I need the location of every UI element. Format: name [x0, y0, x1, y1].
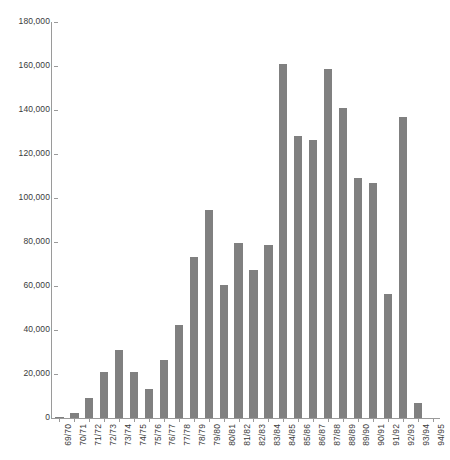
x-axis-tick-label: 77/78	[182, 424, 192, 446]
bar-slot	[261, 22, 276, 418]
bar-slot	[82, 22, 97, 418]
bar	[55, 417, 63, 418]
x-axis-tick-label: 84/85	[287, 424, 297, 446]
y-axis-tick-label: 40,000	[23, 324, 50, 334]
x-axis-tick-mark	[268, 419, 269, 422]
bar-slot	[186, 22, 201, 418]
x-axis-tick-label: 87/88	[332, 424, 342, 446]
x-axis-line	[51, 418, 440, 419]
bar	[190, 257, 198, 418]
x-axis-tick-label: 89/90	[361, 424, 371, 446]
bar-slot	[112, 22, 127, 418]
x-axis-tick-mark	[358, 419, 359, 422]
x-axis-tick-mark	[239, 419, 240, 422]
x-axis-tick-mark	[343, 419, 344, 422]
plot-area	[52, 22, 440, 418]
x-axis-tick-label: 80/81	[227, 424, 237, 446]
bar	[309, 140, 317, 418]
x-axis-tick-label: 92/93	[406, 424, 416, 446]
x-axis-tick-mark	[59, 419, 60, 422]
x-axis-tick-mark	[194, 419, 195, 422]
bar-slot	[306, 22, 321, 418]
y-axis-tick-label: 20,000	[23, 368, 50, 378]
bar-slot	[276, 22, 291, 418]
y-axis-tick-label: 160,000	[19, 60, 50, 70]
x-axis-tick-mark	[179, 419, 180, 422]
bar	[234, 243, 242, 418]
x-axis-tick-mark	[74, 419, 75, 422]
x-axis-tick-label: 83/84	[272, 424, 282, 446]
y-axis-tick-mark	[54, 418, 58, 419]
x-axis-tick-label: 72/73	[108, 424, 118, 446]
x-axis-tick-mark	[328, 419, 329, 422]
bar	[100, 372, 108, 418]
x-axis-tick-mark	[224, 419, 225, 422]
bar	[130, 372, 138, 418]
x-axis-tick-label: 94/95	[436, 424, 446, 446]
bar-slot	[380, 22, 395, 418]
y-axis-tick-label: 140,000	[19, 104, 50, 114]
x-axis-tick-mark	[433, 419, 434, 422]
bar-slot	[410, 22, 425, 418]
x-axis-tick-mark	[253, 419, 254, 422]
x-axis-tick-mark	[164, 419, 165, 422]
x-axis-tick-label: 74/75	[138, 424, 148, 446]
bar	[399, 117, 407, 418]
bar	[369, 183, 377, 418]
bar	[175, 325, 183, 419]
bar	[70, 413, 78, 419]
bar	[354, 178, 362, 418]
x-axis-tick-mark	[373, 419, 374, 422]
x-axis-tick-label: 73/74	[123, 424, 133, 446]
x-axis-tick-label: 78/79	[197, 424, 207, 446]
bar-slot	[97, 22, 112, 418]
bar-slot	[216, 22, 231, 418]
bar	[339, 108, 347, 418]
bar-slot	[336, 22, 351, 418]
bar-slot	[425, 22, 440, 418]
bar	[264, 245, 272, 418]
x-axis-tick-label: 76/77	[167, 424, 177, 446]
bar	[205, 210, 213, 418]
y-axis-tick-label: 80,000	[23, 236, 50, 246]
bar-slot	[291, 22, 306, 418]
y-axis-tick-label: 100,000	[19, 192, 50, 202]
bar	[279, 64, 287, 418]
bar-slot	[246, 22, 261, 418]
bar	[249, 270, 257, 419]
x-axis-tick-mark	[388, 419, 389, 422]
bar-slot	[52, 22, 67, 418]
x-axis-tick-mark	[134, 419, 135, 422]
bar-slot	[321, 22, 336, 418]
x-axis-tick-label: 91/92	[391, 424, 401, 446]
x-axis-tick-mark	[403, 419, 404, 422]
x-axis-tick-mark	[104, 419, 105, 422]
bar	[85, 398, 93, 418]
x-axis-tick-label: 81/82	[242, 424, 252, 446]
x-axis-tick-mark	[313, 419, 314, 422]
bar	[160, 360, 168, 418]
bar	[115, 350, 123, 418]
x-axis-tick-label: 90/91	[376, 424, 386, 446]
x-axis-tick-label: 86/87	[317, 424, 327, 446]
bar	[414, 403, 422, 418]
x-axis-tick-label: 82/83	[257, 424, 267, 446]
bar-slot	[231, 22, 246, 418]
x-axis-tick-label: 71/72	[93, 424, 103, 446]
bar-slot	[156, 22, 171, 418]
x-axis-tick-mark	[418, 419, 419, 422]
bar-slot	[201, 22, 216, 418]
bar	[145, 389, 153, 418]
x-axis-tick-mark	[283, 419, 284, 422]
bar-slot	[350, 22, 365, 418]
bar	[294, 136, 302, 418]
bar-slot	[127, 22, 142, 418]
x-axis-tick-mark	[119, 419, 120, 422]
bar-chart: 020,00040,00060,00080,000100,000120,0001…	[0, 0, 450, 460]
x-axis-tick-label: 70/71	[78, 424, 88, 446]
y-axis-tick-label: 120,000	[19, 148, 50, 158]
bar-slot	[142, 22, 157, 418]
x-axis-tick-mark	[209, 419, 210, 422]
bar-slot	[171, 22, 186, 418]
x-axis-tick-label: 79/80	[212, 424, 222, 446]
